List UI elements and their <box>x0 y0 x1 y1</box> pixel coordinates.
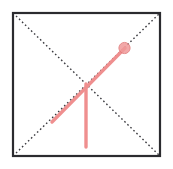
diagram-svg <box>0 0 173 169</box>
diagram-canvas <box>0 0 173 169</box>
marker-endpoint-dot[interactable] <box>119 42 130 53</box>
